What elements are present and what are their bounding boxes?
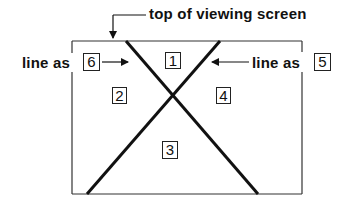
line-6-number-box: 6 — [83, 53, 100, 71]
line-6 — [126, 41, 258, 194]
region-3-box: 3 — [162, 141, 178, 159]
line-5 — [87, 41, 220, 194]
diagram-graphics — [0, 0, 353, 205]
right-line-label: line as — [252, 55, 300, 70]
region-2-box: 2 — [112, 87, 127, 104]
left-line-label: line as — [22, 55, 70, 70]
region-1-box: 1 — [165, 52, 181, 69]
top-callout-arrow-icon — [113, 15, 146, 38]
top-of-screen-label: top of viewing screen — [149, 6, 307, 21]
region-4-box: 4 — [216, 87, 231, 104]
line-5-number-box: 5 — [314, 53, 331, 71]
diagram-canvas: top of viewing screen line as 6 line as … — [0, 0, 353, 205]
